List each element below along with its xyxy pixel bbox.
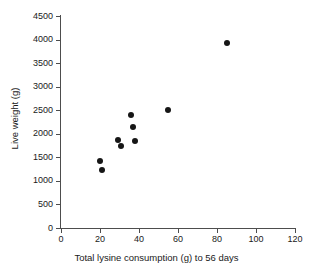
x-tick-label: 100 bbox=[236, 235, 276, 244]
data-point bbox=[99, 167, 105, 173]
y-tick-label: 500 bbox=[13, 200, 53, 209]
x-tick-mark bbox=[61, 229, 62, 233]
y-tick-mark bbox=[56, 134, 60, 135]
y-tick-mark bbox=[56, 228, 60, 229]
y-tick-mark bbox=[56, 181, 60, 182]
x-tick-mark bbox=[256, 229, 257, 233]
x-tick-label: 120 bbox=[275, 235, 313, 244]
x-tick-label: 20 bbox=[80, 235, 120, 244]
y-tick-mark bbox=[56, 110, 60, 111]
data-point bbox=[165, 107, 171, 113]
y-tick-label: 4500 bbox=[13, 12, 53, 21]
data-point bbox=[224, 40, 230, 46]
y-tick-label: 0 bbox=[13, 224, 53, 233]
plot-area bbox=[61, 16, 295, 228]
x-tick-label: 40 bbox=[119, 235, 159, 244]
x-tick-mark bbox=[217, 229, 218, 233]
y-tick-mark bbox=[56, 87, 60, 88]
y-tick-mark bbox=[56, 40, 60, 41]
y-tick-mark bbox=[56, 204, 60, 205]
x-tick-label: 80 bbox=[197, 235, 237, 244]
x-tick-label: 60 bbox=[158, 235, 198, 244]
x-tick-mark bbox=[295, 229, 296, 233]
y-axis-title: Live weight (g) bbox=[9, 59, 20, 179]
x-tick-label: 0 bbox=[41, 235, 81, 244]
x-tick-mark bbox=[100, 229, 101, 233]
y-tick-mark bbox=[56, 16, 60, 17]
x-tick-mark bbox=[178, 229, 179, 233]
y-tick-mark bbox=[56, 63, 60, 64]
x-tick-mark bbox=[139, 229, 140, 233]
scatter-chart-figure: 050010001500200025003000350040004500 020… bbox=[0, 0, 313, 273]
data-point bbox=[115, 137, 121, 143]
x-axis-title: Total lysine consumption (g) to 56 days bbox=[0, 252, 313, 263]
y-tick-label: 4000 bbox=[13, 35, 53, 44]
y-tick-mark bbox=[56, 157, 60, 158]
